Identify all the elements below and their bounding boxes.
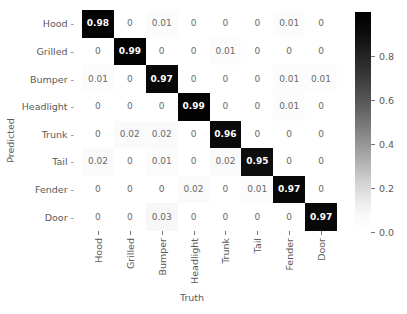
y-tick-label: Fender- <box>16 176 76 204</box>
heatmap-cell: 0.02 <box>210 148 242 176</box>
heatmap-cell: 0 <box>82 93 114 121</box>
heatmap-cell: 0 <box>241 10 273 38</box>
y-tick-text: Headlight <box>22 101 68 112</box>
heatmap-cell: 0 <box>114 203 146 231</box>
heatmap-cell: 0 <box>305 38 337 66</box>
heatmap-cell: 0 <box>210 203 242 231</box>
heatmap-cell: 0 <box>82 121 114 149</box>
colorbar-tick-mark <box>371 144 375 145</box>
heatmap-cell: 0 <box>178 121 210 149</box>
heatmap-cell: 0.96 <box>210 121 242 149</box>
heatmap-cell: 0 <box>241 93 273 121</box>
x-tick-label: Trunk <box>210 231 242 293</box>
heatmap-cell: 0.02 <box>82 148 114 176</box>
x-tick-mark <box>98 231 99 235</box>
heatmap-cell: 0.01 <box>305 65 337 93</box>
y-tick-mark: - <box>71 46 74 57</box>
heatmap-cell: 0 <box>305 148 337 176</box>
heatmap-cell: 0 <box>114 176 146 204</box>
heatmap-cell: 0 <box>82 203 114 231</box>
x-tick-label: Tail <box>241 231 273 293</box>
heatmap-cell: 0.01 <box>273 93 305 121</box>
heatmap-cell: 0 <box>273 38 305 66</box>
heatmap-cell: 0 <box>178 10 210 38</box>
colorbar-tick-text: 0.2 <box>379 183 394 194</box>
heatmap-cell: 0 <box>210 10 242 38</box>
heatmap-cell: 0 <box>114 10 146 38</box>
heatmap-cell: 0.01 <box>146 10 178 38</box>
y-tick-text: Fender <box>35 184 68 195</box>
heatmap-cell: 0.97 <box>305 203 337 231</box>
heatmap-cell: 0 <box>210 176 242 204</box>
heatmap-cell: 0.01 <box>273 10 305 38</box>
x-tick-label: Grilled <box>114 231 146 293</box>
heatmap-cell: 0 <box>305 121 337 149</box>
heatmap-cell: 0.01 <box>82 65 114 93</box>
confusion-matrix-figure: Predicted Hood-Grilled-Bumper-Headlight-… <box>0 0 407 314</box>
x-tick-label: Headlight <box>178 231 210 293</box>
colorbar-gradient <box>355 12 371 232</box>
heatmap-cell: 0 <box>146 176 178 204</box>
x-tick-text: Bumper <box>156 238 167 276</box>
heatmap-cell: 0.02 <box>114 121 146 149</box>
x-tick-text: Trunk <box>220 238 231 264</box>
heatmap-cell: 0.01 <box>210 38 242 66</box>
heatmap-grid: 0.9800.010000.01000.99000.010000.0100.97… <box>82 10 337 231</box>
heatmap-cell: 0.01 <box>241 176 273 204</box>
x-tick-mark <box>162 231 163 235</box>
heatmap-cell: 0.02 <box>178 176 210 204</box>
colorbar-tick-text: 0.0 <box>379 227 394 238</box>
heatmap-cell: 0 <box>178 38 210 66</box>
heatmap-cell: 0 <box>178 65 210 93</box>
heatmap-cell: 0 <box>210 65 242 93</box>
heatmap-cell: 0.98 <box>82 10 114 38</box>
heatmap-cell: 0.97 <box>146 65 178 93</box>
y-tick-text: Grilled <box>37 46 68 57</box>
y-tick-label: Headlight- <box>16 93 76 121</box>
heatmap-cell: 0 <box>178 148 210 176</box>
y-tick-mark: - <box>71 129 74 140</box>
y-tick-label: Grilled- <box>16 38 76 66</box>
colorbar-tick-mark <box>371 100 375 101</box>
heatmap-cell: 0 <box>241 65 273 93</box>
heatmap-cell: 0 <box>273 203 305 231</box>
heatmap-cell: 0.95 <box>241 148 273 176</box>
y-tick-mark: - <box>71 212 74 223</box>
heatmap-cell: 0 <box>82 176 114 204</box>
x-tick-text: Hood <box>92 238 103 263</box>
heatmap-cell: 0.99 <box>178 93 210 121</box>
y-tick-label: Trunk- <box>16 121 76 149</box>
heatmap-cell: 0 <box>241 121 273 149</box>
x-tick-mark <box>289 231 290 235</box>
x-tick-text: Headlight <box>188 238 199 284</box>
x-tick-text: Door <box>316 238 327 261</box>
y-tick-label: Hood- <box>16 10 76 38</box>
y-tick-text: Trunk <box>42 129 68 140</box>
heatmap-cell: 0 <box>210 93 242 121</box>
heatmap-cell: 0 <box>273 148 305 176</box>
heatmap-cell: 0 <box>305 93 337 121</box>
heatmap-cell: 0 <box>114 93 146 121</box>
x-tick-label: Door <box>305 231 337 293</box>
y-tick-text: Hood <box>43 18 68 29</box>
heatmap-cell: 0 <box>305 10 337 38</box>
heatmap-cell: 0.02 <box>146 121 178 149</box>
y-tick-text: Bumper <box>30 74 68 85</box>
heatmap-cell: 0.01 <box>273 65 305 93</box>
colorbar-tick-text: 0.8 <box>379 51 394 62</box>
y-tick-text: Tail <box>52 156 67 167</box>
heatmap-cell: 0 <box>114 65 146 93</box>
colorbar-tick-text: 0.6 <box>379 95 394 106</box>
heatmap-cell: 0 <box>305 176 337 204</box>
heatmap-cell: 0 <box>82 38 114 66</box>
heatmap-cell: 0.97 <box>273 176 305 204</box>
colorbar-tick-mark <box>371 188 375 189</box>
heatmap-cell: 0 <box>241 38 273 66</box>
x-tick-label: Hood <box>82 231 114 293</box>
heatmap-cell: 0.03 <box>146 203 178 231</box>
x-tick-text: Grilled <box>124 238 135 269</box>
heatmap-cell: 0 <box>178 203 210 231</box>
x-tick-mark <box>321 231 322 235</box>
heatmap-cell: 0 <box>114 148 146 176</box>
y-tick-mark: - <box>71 101 74 112</box>
